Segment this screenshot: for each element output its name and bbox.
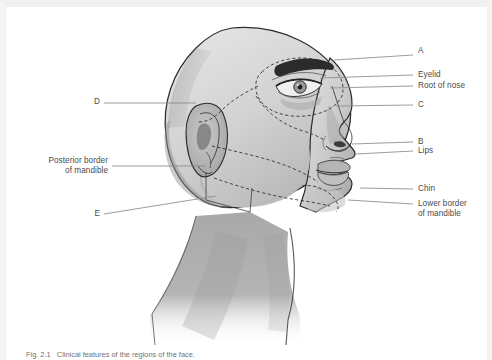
leader-lips bbox=[356, 151, 413, 154]
figure-root: A Eyelid Root of nose C B Lips Chin Lowe… bbox=[0, 0, 492, 360]
label-a: A bbox=[418, 46, 424, 56]
label-c: C bbox=[418, 100, 424, 110]
neck-group bbox=[150, 212, 300, 345]
label-e: E bbox=[84, 209, 100, 219]
leader-E bbox=[104, 196, 216, 214]
label-d: D bbox=[84, 97, 100, 107]
leader-B bbox=[352, 142, 413, 144]
label-posterior-border-of-mandible: Posterior border of mandible bbox=[24, 156, 108, 175]
label-chin: Chin bbox=[418, 184, 435, 194]
leader-A bbox=[334, 55, 413, 60]
label-lower-border-of-mandible: Lower border of mandible bbox=[418, 199, 467, 218]
figure-caption: Fig. 2.1 Clinical features of the region… bbox=[26, 350, 195, 359]
leader-chin bbox=[360, 188, 413, 189]
label-root-of-nose: Root of nose bbox=[418, 81, 465, 91]
leader-lower-border bbox=[348, 200, 413, 204]
label-lips: Lips bbox=[418, 146, 433, 156]
label-eyelid: Eyelid bbox=[418, 70, 441, 80]
